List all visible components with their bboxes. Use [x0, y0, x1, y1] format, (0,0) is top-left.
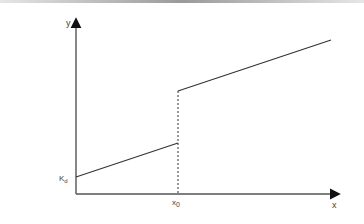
intercept-label-sub: d	[64, 178, 67, 184]
discontinuity-label: x0	[172, 198, 180, 208]
intercept-label: Kd	[59, 174, 68, 184]
upper-segment	[178, 40, 331, 91]
lower-segment	[76, 143, 178, 177]
discontinuity-label-sub: 0	[176, 201, 180, 208]
y-axis-label: y	[66, 18, 71, 28]
x-axis-label: x	[332, 200, 337, 210]
piecewise-linear-diagram: y x Kd x0	[0, 0, 364, 224]
